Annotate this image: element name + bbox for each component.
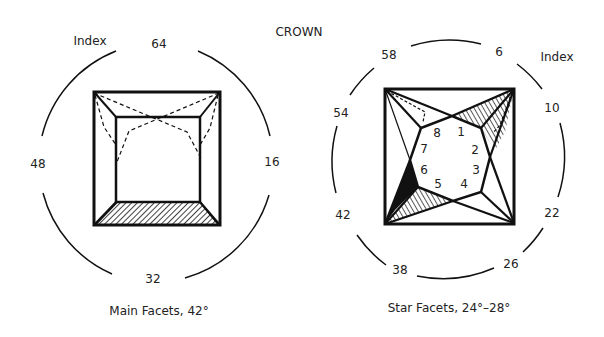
facet-number-7: 7 [420, 142, 428, 156]
facet-number-8: 8 [433, 126, 441, 140]
right-index-label: Index [540, 50, 573, 64]
right-index-54: 54 [333, 106, 348, 120]
main-facets-drawing [94, 92, 220, 225]
right-caption: Star Facets, 24°–28° [388, 301, 511, 315]
crown-facet-diagrams [0, 0, 604, 337]
right-index-38: 38 [392, 263, 407, 277]
left-index-32: 32 [145, 272, 160, 286]
right-index-circle [332, 40, 564, 279]
right-index-42: 42 [335, 208, 350, 222]
left-index-16: 16 [264, 155, 279, 169]
left-index-64: 64 [151, 37, 166, 51]
facet-number-2: 2 [471, 143, 479, 157]
star-facets-drawing [385, 89, 514, 224]
right-index-26: 26 [503, 257, 518, 271]
left-index-circle [42, 51, 270, 278]
facet-number-4: 4 [460, 177, 468, 191]
right-index-10: 10 [544, 101, 559, 115]
facet-number-5: 5 [434, 177, 442, 191]
diagram-title: CROWN [275, 25, 322, 39]
right-index-22: 22 [544, 206, 559, 220]
left-index-48: 48 [30, 157, 45, 171]
left-index-label: Index [73, 34, 106, 48]
left-caption: Main Facets, 42° [109, 304, 208, 318]
facet-number-6: 6 [420, 163, 428, 177]
right-index-58: 58 [381, 48, 396, 62]
facet-number-1: 1 [457, 125, 465, 139]
facet-number-3: 3 [472, 163, 480, 177]
right-index-6: 6 [495, 45, 503, 59]
